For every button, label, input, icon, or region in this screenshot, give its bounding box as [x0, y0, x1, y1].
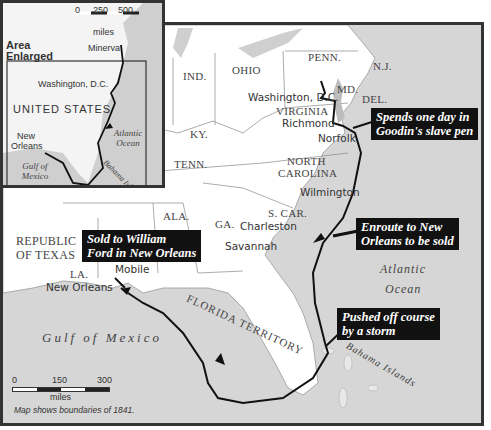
state-label-virginia: VIRGINIA — [276, 105, 329, 117]
water-gulf: Gulf of Mexico — [42, 330, 162, 346]
inset-label-country: UNITED STATES — [13, 103, 111, 115]
city-new-orleans: New Orleans — [46, 281, 113, 293]
state-label-ky: KY. — [190, 128, 208, 140]
state-label-ohio: OHIO — [232, 64, 261, 76]
state-label-nc-1: NORTH — [287, 155, 326, 167]
inset-scale-250: 250 — [93, 5, 108, 15]
city-washington: Washington, D.C. — [248, 91, 338, 103]
state-label-tenn: TENN. — [174, 158, 208, 170]
inset-label-gulf: Gulf of Mexico — [15, 161, 55, 181]
city-charleston: Charleston — [240, 220, 297, 232]
city-norfolk: Norfolk — [318, 132, 356, 144]
inset-label-washington: Washington, D.C. — [38, 79, 108, 89]
inset-scale-unit: miles — [93, 27, 114, 37]
state-label-del: DEL. — [362, 93, 387, 105]
state-label-penn: PENN. — [308, 51, 341, 63]
inset-scale-0: 0 — [75, 5, 80, 15]
state-label-ind: IND. — [183, 70, 207, 82]
callout-enroute: Enroute to New Orleans to be sold — [356, 218, 459, 250]
state-label-ga: GA. — [215, 218, 235, 230]
callout-storm: Pushed off course by a storm — [337, 308, 440, 340]
boundaries-note: Map shows boundaries of 1841. — [14, 405, 135, 415]
state-label-texas-1: REPUBLIC — [16, 234, 76, 249]
water-atlantic-1: Atlantic — [380, 262, 426, 277]
inset-heading: Area Enlarged — [6, 40, 61, 62]
inset-scale-500: 500 — [118, 5, 133, 15]
state-label-nj: N.J. — [373, 60, 392, 72]
city-wilmington: Wilmington — [300, 186, 360, 198]
state-label-md: MD. — [337, 83, 358, 95]
callout-sold: Sold to William Ford in New Orleans — [82, 230, 201, 262]
state-label-sc: S. CAR. — [268, 207, 307, 219]
city-richmond: Richmond — [282, 117, 335, 129]
inset-label-atlantic: Atlantic Ocean — [108, 128, 148, 148]
water-atlantic-2: Ocean — [385, 282, 421, 297]
callout-slave-pen: Spends one day in Goodin's slave pen — [371, 108, 478, 140]
inset-map: 0 250 500 miles Area Enlarged Minerva Wa… — [0, 0, 165, 188]
state-label-nc-2: CAROLINA — [278, 167, 337, 179]
state-label-ala: ALA. — [163, 210, 190, 222]
inset-label-minerva: Minerva — [88, 43, 120, 53]
state-label-texas-2: OF TEXAS — [16, 248, 75, 263]
city-mobile: Mobile — [115, 263, 149, 275]
inset-label-new-orleans: New Orleans — [11, 131, 41, 151]
state-label-la: LA. — [70, 268, 88, 280]
scale-bar: 0 150 300 miles — [12, 375, 112, 400]
city-savannah: Savannah — [225, 240, 277, 252]
